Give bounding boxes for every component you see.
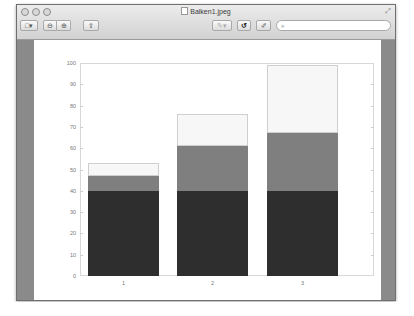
- preview-window: Balken1.jpeg ⤢ □▾ ⊖ ⊕ ⇪ ✎▾ ↺ ✐: [16, 4, 396, 301]
- zoom-out-icon: ⊖: [47, 22, 53, 30]
- bar-segment-top-1: [88, 163, 159, 176]
- y-tick-mark: [80, 84, 83, 85]
- y-tick-mark: [80, 212, 83, 213]
- zoom-in-icon: ⊕: [61, 22, 67, 30]
- zoom-in-button[interactable]: ⊕: [57, 20, 71, 31]
- fullscreen-icon[interactable]: ⤢: [385, 7, 391, 15]
- y-tick-label: 50: [58, 167, 76, 173]
- y-tick-mark-right: [371, 191, 374, 192]
- bar-segment-middle-3: [267, 133, 338, 191]
- bar-segment-middle-2: [177, 146, 248, 191]
- y-tick-label: 30: [58, 209, 76, 215]
- pencil-icon: ✎▾: [217, 22, 227, 30]
- x-tick-label: 3: [293, 280, 313, 286]
- y-tick-mark: [80, 191, 83, 192]
- y-tick-label: 40: [58, 188, 76, 194]
- sidebar-icon: □▾: [25, 22, 33, 30]
- y-tick-label: 100: [58, 60, 76, 66]
- y-tick-mark: [80, 170, 83, 171]
- y-tick-mark: [80, 106, 83, 107]
- y-tick-mark: [80, 255, 83, 256]
- y-tick-label: 80: [58, 103, 76, 109]
- bar-segment-bottom-2: [177, 191, 248, 276]
- annotate-button[interactable]: ✎▾: [212, 20, 232, 31]
- share-button[interactable]: ⇪: [83, 20, 99, 31]
- window-title: Balken1.jpeg: [17, 7, 395, 15]
- toolbar: □▾ ⊖ ⊕ ⇪ ✎▾ ↺ ✐ ⌕: [17, 18, 395, 36]
- view-menu-button[interactable]: □▾: [20, 20, 38, 31]
- markup-icon: ✐: [261, 22, 267, 30]
- y-tick-mark-right: [371, 127, 374, 128]
- stacked-bar-chart: 0102030405060708090100123: [34, 40, 381, 300]
- y-tick-mark-right: [371, 212, 374, 213]
- bar-segment-top-2: [177, 114, 248, 146]
- y-tick-mark-right: [371, 255, 374, 256]
- zoom-out-button[interactable]: ⊖: [43, 20, 57, 31]
- window-title-text: Balken1.jpeg: [190, 8, 230, 15]
- background-strip: [0, 302, 414, 316]
- y-tick-mark-right: [371, 233, 374, 234]
- y-tick-mark-right: [371, 84, 374, 85]
- bar-segment-bottom-3: [267, 191, 338, 276]
- share-icon: ⇪: [88, 22, 94, 30]
- rotate-button[interactable]: ↺: [237, 20, 251, 31]
- search-icon: ⌕: [281, 22, 285, 29]
- y-tick-label: 20: [58, 230, 76, 236]
- x-tick-label: 1: [114, 280, 134, 286]
- image-canvas: 0102030405060708090100123: [34, 40, 381, 300]
- y-tick-mark: [80, 127, 83, 128]
- bar-segment-bottom-1: [88, 191, 159, 276]
- x-tick-label: 2: [203, 280, 223, 286]
- y-tick-mark-right: [371, 106, 374, 107]
- bar-segment-top-3: [267, 65, 338, 133]
- rotate-icon: ↺: [241, 22, 247, 30]
- y-tick-label: 70: [58, 124, 76, 130]
- search-input[interactable]: ⌕: [276, 20, 391, 31]
- y-tick-label: 0: [58, 273, 76, 279]
- y-tick-label: 10: [58, 252, 76, 258]
- edit-toolbar-button[interactable]: ✐: [256, 20, 271, 31]
- bar-segment-middle-1: [88, 176, 159, 191]
- y-tick-mark-right: [371, 148, 374, 149]
- y-tick-mark-right: [371, 170, 374, 171]
- y-tick-label: 60: [58, 145, 76, 151]
- y-tick-label: 90: [58, 81, 76, 87]
- title-bar: Balken1.jpeg ⤢ □▾ ⊖ ⊕ ⇪ ✎▾ ↺ ✐: [17, 5, 395, 40]
- file-icon: [181, 7, 188, 15]
- y-tick-mark: [80, 233, 83, 234]
- y-tick-mark: [80, 148, 83, 149]
